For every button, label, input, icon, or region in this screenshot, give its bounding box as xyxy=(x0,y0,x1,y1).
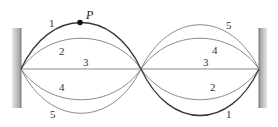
right-wall xyxy=(259,28,267,108)
label-left-1: 1 xyxy=(49,17,55,29)
label-right-5: 5 xyxy=(226,19,232,31)
label-right-3: 3 xyxy=(203,56,209,68)
label-right-2: 2 xyxy=(210,81,216,93)
label-right-1: 1 xyxy=(226,108,232,120)
point-p-marker xyxy=(77,20,83,26)
label-left-4: 4 xyxy=(59,81,65,93)
point-p-label: P xyxy=(85,8,94,22)
label-right-4: 4 xyxy=(212,44,218,56)
diagram-canvas: P 1 2 3 4 5 5 4 3 2 1 xyxy=(0,0,278,127)
left-wall xyxy=(12,28,21,108)
standing-wave-diagram: P 1 2 3 4 5 5 4 3 2 1 xyxy=(0,0,278,127)
label-left-5: 5 xyxy=(50,108,56,120)
label-left-2: 2 xyxy=(59,45,65,57)
label-left-3: 3 xyxy=(83,56,89,68)
